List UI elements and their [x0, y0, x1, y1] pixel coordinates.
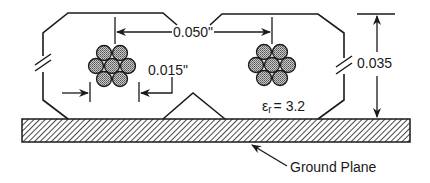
height-label: 0.035 — [357, 55, 392, 71]
cable-diagram: 0.050" 0.015" 0.035 εr= 3.2 Ground Plane — [0, 0, 430, 183]
gap-label: 0.015" — [148, 62, 188, 78]
jacket-valley-peak — [163, 93, 225, 119]
spacing-label: 0.050" — [173, 24, 213, 40]
left-break-mark-icon — [35, 54, 51, 72]
right-conductor-bundle — [249, 45, 296, 86]
ground-plane-label: Ground Plane — [290, 159, 377, 175]
ground-plane-leader — [252, 145, 287, 166]
right-break-mark-icon — [336, 56, 352, 74]
dielectric-label: εr= 3.2 — [262, 98, 305, 115]
ground-plane — [22, 119, 410, 142]
left-conductor-bundle — [89, 46, 136, 87]
